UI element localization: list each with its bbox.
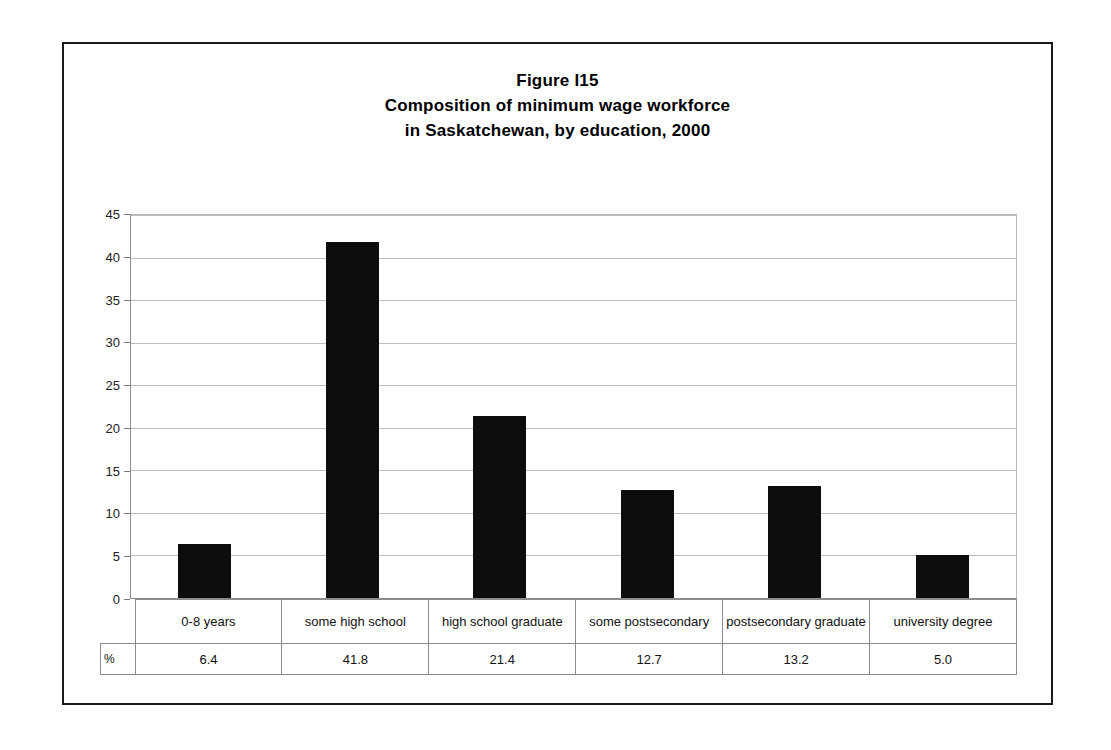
table-cell-category: university degree <box>870 600 1017 644</box>
y-tick-label-45: 45 <box>106 207 120 222</box>
y-tick-mark-20 <box>124 428 130 429</box>
y-tick-label-20: 20 <box>106 420 120 435</box>
table-row-categories: 0-8 yearssome high schoolhigh school gra… <box>101 600 1017 644</box>
plot-region: 454035302520151050 <box>130 214 1017 599</box>
y-tick-mark-10 <box>124 513 130 514</box>
bar <box>473 416 526 598</box>
title-line-3: in Saskatchewan, by education, 2000 <box>64 118 1051 143</box>
bar-slot <box>574 215 722 598</box>
plot-area <box>130 214 1017 599</box>
percent-symbol-cell: % <box>101 644 136 675</box>
bar <box>326 242 379 598</box>
bars-layer <box>131 215 1016 598</box>
table-cell-value: 6.4 <box>135 644 282 675</box>
table-cell-category: postsecondary graduate <box>723 600 870 644</box>
bar-slot <box>131 215 279 598</box>
y-tick-label-10: 10 <box>106 506 120 521</box>
y-tick-mark-15 <box>124 471 130 472</box>
y-tick-label-40: 40 <box>106 249 120 264</box>
y-tick-label-35: 35 <box>106 292 120 307</box>
table-cell-category: some postsecondary <box>576 600 723 644</box>
table-cell-value: 12.7 <box>576 644 723 675</box>
y-tick-label-30: 30 <box>106 335 120 350</box>
table-cell-category: high school graduate <box>429 600 576 644</box>
table-cell-value: 5.0 <box>870 644 1017 675</box>
data-table: 0-8 yearssome high schoolhigh school gra… <box>100 599 1017 675</box>
table-cell-value: 41.8 <box>282 644 429 675</box>
bar <box>621 490 674 598</box>
bar-slot <box>721 215 869 598</box>
title-line-1: Figure I15 <box>64 68 1051 93</box>
chart-title: Figure I15 Composition of minimum wage w… <box>64 68 1051 143</box>
y-tick-mark-25 <box>124 385 130 386</box>
table-cell-value: 13.2 <box>723 644 870 675</box>
y-tick-mark-40 <box>124 257 130 258</box>
table-row-values: % 6.441.821.412.713.25.0 <box>101 644 1017 675</box>
title-line-2: Composition of minimum wage workforce <box>64 93 1051 118</box>
table-cell-category: some high school <box>282 600 429 644</box>
table-cell-category: 0-8 years <box>135 600 282 644</box>
bar <box>178 544 231 598</box>
y-tick-label-25: 25 <box>106 378 120 393</box>
y-tick-label-5: 5 <box>113 549 120 564</box>
table-cell-value: 21.4 <box>429 644 576 675</box>
y-tick-mark-35 <box>124 300 130 301</box>
bar-slot <box>279 215 427 598</box>
y-tick-mark-30 <box>124 342 130 343</box>
table-corner-blank <box>101 600 136 644</box>
figure-frame: Figure I15 Composition of minimum wage w… <box>62 42 1053 705</box>
y-tick-label-15: 15 <box>106 463 120 478</box>
y-tick-mark-45 <box>124 214 130 215</box>
y-tick-mark-5 <box>124 556 130 557</box>
bar <box>768 486 821 598</box>
bar-slot <box>869 215 1017 598</box>
bar <box>916 555 969 598</box>
bar-slot <box>426 215 574 598</box>
